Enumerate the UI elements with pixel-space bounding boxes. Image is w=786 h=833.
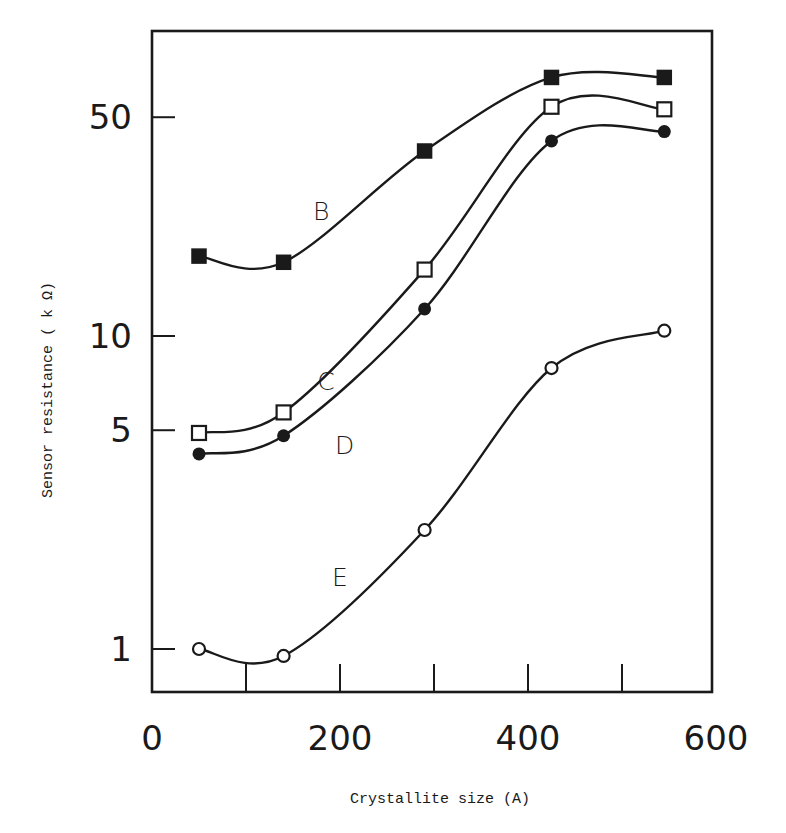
series-e-marker	[546, 362, 558, 374]
y-tick-label: 10	[89, 316, 132, 356]
series-labels: BCDE	[313, 197, 354, 591]
series-b-marker	[545, 70, 559, 84]
series-label-c: C	[317, 367, 334, 396]
series-c-marker	[192, 426, 206, 440]
series-b-marker	[418, 144, 432, 158]
series-e-marker	[278, 650, 290, 662]
sensor-resistance-chart: BCDE 0200400600 151050 Crystallite size …	[0, 0, 786, 833]
series-e-marker	[419, 524, 431, 536]
plot-frame	[152, 31, 712, 692]
series-d-marker	[545, 134, 558, 147]
series-d-marker	[193, 447, 206, 460]
y-tick-label: 50	[89, 97, 132, 137]
series-c-marker	[277, 405, 291, 419]
series-d-marker	[658, 125, 671, 138]
x-tick-label: 0	[141, 718, 163, 758]
series-b-marker	[657, 70, 671, 84]
y-axis-title: Sensor resistance ( k Ω)	[40, 282, 57, 498]
series-c-marker	[545, 100, 559, 114]
y-axis-tick-labels: 151050	[89, 97, 132, 669]
series-curves	[199, 72, 664, 663]
axis-ticks	[152, 117, 622, 692]
x-tick-label: 600	[684, 718, 749, 758]
series-e-curve	[199, 331, 664, 664]
series-d-curve	[199, 125, 664, 454]
x-tick-label: 400	[496, 718, 561, 758]
series-d-marker	[418, 302, 431, 315]
series-e-marker	[658, 325, 670, 337]
series-b-curve	[199, 72, 664, 269]
y-tick-label: 5	[110, 410, 132, 450]
series-b-marker	[277, 255, 291, 269]
x-axis-title: Crystallite size (A)	[350, 791, 530, 808]
x-tick-label: 200	[308, 718, 373, 758]
series-d-marker	[277, 429, 290, 442]
series-markers	[192, 70, 671, 662]
series-label-d: D	[335, 431, 354, 460]
series-label-b: B	[313, 197, 329, 226]
series-c-marker	[418, 263, 432, 277]
series-c-marker	[657, 102, 671, 116]
y-tick-label: 1	[110, 629, 132, 669]
series-b-marker	[192, 249, 206, 263]
series-label-e: E	[332, 563, 348, 592]
series-e-marker	[193, 643, 205, 655]
x-axis-tick-labels: 0200400600	[141, 718, 748, 758]
